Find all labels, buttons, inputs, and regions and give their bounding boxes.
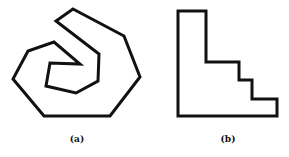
polygon-a bbox=[13, 9, 140, 116]
figure-label-b: (b) bbox=[221, 134, 236, 144]
polygon-b bbox=[178, 11, 277, 116]
diagram-canvas bbox=[0, 0, 289, 157]
figure-label-a: (a) bbox=[70, 134, 84, 144]
